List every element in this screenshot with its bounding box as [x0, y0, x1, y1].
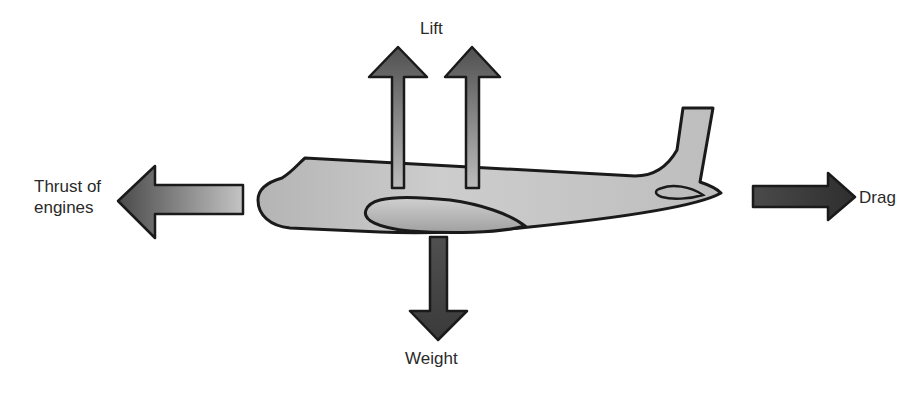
weight-label: Weight — [405, 348, 458, 369]
weight-arrow — [410, 237, 467, 340]
four-forces-diagram — [0, 0, 919, 396]
thrust-label-line-2: engines — [34, 197, 101, 218]
lift-label: Lift — [420, 18, 443, 39]
thrust-arrow — [118, 166, 243, 238]
thrust-label-line-1: Thrust of — [34, 176, 101, 197]
thrust-label: Thrust of engines — [34, 176, 101, 218]
airplane — [258, 108, 721, 233]
drag-arrow — [753, 173, 855, 220]
drag-label: Drag — [859, 187, 896, 208]
